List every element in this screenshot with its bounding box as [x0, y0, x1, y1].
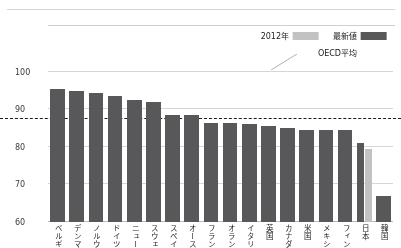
y-tick-60: 60: [15, 219, 41, 227]
bar-group: [48, 72, 67, 222]
chart-legend: 2012年最新値: [261, 30, 387, 41]
oecd-average-annotation: OECD平均: [318, 47, 357, 58]
bar-latest: [319, 130, 334, 222]
category-label: 米国: [303, 224, 312, 246]
legend-item: 2012年: [261, 30, 319, 41]
legend-item: 最新値: [333, 30, 387, 41]
category-label: フランス: [207, 224, 216, 246]
y-tick-70: 70: [15, 182, 41, 190]
category-label: カナダ: [284, 224, 293, 246]
bar-latest: [376, 196, 391, 222]
bar-group: [278, 72, 297, 222]
bar-group: [125, 72, 144, 222]
category-label: ドイツ: [111, 224, 120, 246]
bar-group: [67, 72, 86, 222]
bar-latest: [261, 126, 276, 222]
legend-label: 最新値: [333, 30, 357, 41]
bar-group: [259, 72, 278, 222]
bar-latest: [165, 115, 180, 222]
category-label: ノルウェー: [92, 224, 101, 246]
bar-group: [297, 72, 316, 222]
bar-series-container: [48, 72, 393, 222]
legend-label: 2012年: [261, 30, 289, 41]
bar-latest: [299, 130, 314, 222]
bar-latest: [204, 123, 219, 222]
bar-latest: [338, 130, 353, 222]
bar-latest: [223, 123, 238, 222]
bar-latest: [108, 96, 123, 222]
figure-bottom-rule: [7, 9, 395, 10]
bar-latest: [242, 125, 257, 223]
category-label: ニュージーランド: [130, 224, 139, 246]
category-label: デンマーク: [73, 224, 82, 246]
bar-group: [374, 72, 393, 222]
bar-group: [240, 72, 259, 222]
bar-group: [163, 72, 182, 222]
bar-group: [201, 72, 220, 222]
bar-latest: [50, 89, 65, 222]
bar-latest: [184, 115, 199, 222]
bar-group: [86, 72, 105, 222]
bar-group: [106, 72, 125, 222]
bar-latest: [280, 128, 295, 222]
category-label: 英国: [264, 224, 273, 246]
y-tick-100: 100: [15, 69, 41, 77]
bar-group: [144, 72, 163, 222]
category-label: ベルギー: [54, 224, 63, 246]
category-label: スペイン: [169, 224, 178, 246]
bar-group: [316, 72, 335, 222]
category-label: メキシコ: [322, 224, 331, 246]
category-label: 日本: [360, 224, 369, 246]
bar-latest: [357, 143, 364, 222]
bar-group: [182, 72, 201, 222]
y-tick-80: 80: [15, 144, 41, 152]
bar-latest: [127, 100, 142, 222]
plot-area: 60708090100: [48, 72, 393, 222]
legend-swatch-latest: [361, 32, 387, 40]
bar-latest: [146, 102, 161, 222]
bar-chart-figure: 60708090100 韓国日本フィンランドメキシコ米国カナダ英国イタリアオラン…: [0, 0, 401, 248]
category-label: 韓国: [379, 224, 388, 246]
bar-2012: [365, 149, 372, 222]
oecd-leader-line: [271, 54, 297, 70]
legend-swatch-y2012: [293, 32, 319, 40]
category-label: オランダ: [226, 224, 235, 246]
y-tick-90: 90: [15, 107, 41, 115]
bar-latest: [89, 93, 104, 222]
category-label: オーストラリア: [188, 224, 197, 246]
category-label: スウェーデン: [149, 224, 158, 246]
bar-latest: [69, 91, 84, 222]
plot-bottom-rule: [48, 25, 395, 26]
bar-group: [355, 72, 374, 222]
bar-group: [336, 72, 355, 222]
bar-group: [221, 72, 240, 222]
category-label: フィンランド: [341, 224, 350, 246]
category-label: イタリア: [245, 224, 254, 246]
